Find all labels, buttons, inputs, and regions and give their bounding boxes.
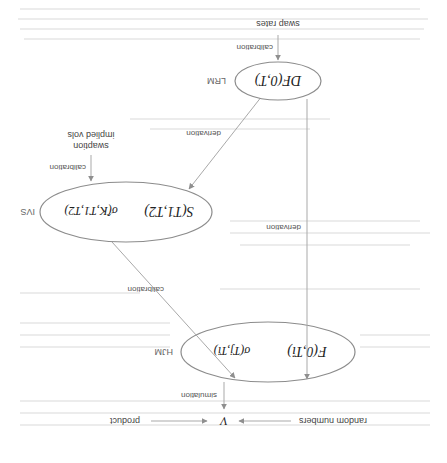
lrm-node: DF(0,T) LRM [207, 62, 321, 100]
hjm-model-label: HJM [155, 347, 174, 357]
flow-diagram: V random numbers product simulation F(0,… [0, 0, 447, 463]
simulation-label: simulation [181, 391, 217, 400]
edge-lrm-to-ivs: derivation [186, 96, 262, 189]
swap-rates-to-lrm-label: calibration [237, 43, 273, 52]
swap-rates-label: swap rates [256, 19, 300, 29]
edge-vols-to-ivs: calibration swaption implied vols [50, 130, 115, 181]
lrm-to-hjm-label: derivation [266, 223, 301, 232]
ivs-node: S(T1,T2) σ̂(K,T1,T2) IVS [20, 182, 212, 242]
ivs-model-label: IVS [20, 207, 35, 217]
lrm-model-label: LRM [207, 76, 226, 86]
hjm-ellipse [181, 322, 355, 382]
ivs-swap-rate: S(T1,T2) [144, 203, 194, 219]
ivs-implied-vol: σ̂(K,T1,T2) [64, 204, 117, 218]
random-numbers-label: random numbers [298, 416, 367, 426]
implied-vols-label: implied vols [67, 130, 115, 140]
product-label: product [109, 416, 140, 426]
hjm-volatility: σ(Tj,Ti) [214, 344, 250, 358]
lrm-discount-factor: DF(0,T) [255, 72, 303, 88]
diagram-canvas: V random numbers product simulation F(0,… [0, 0, 447, 463]
vols-to-ivs-label: calibration [50, 163, 86, 172]
hjm-node: F(0,Ti) σ(Tj,Ti) HJM [155, 322, 356, 382]
lrm-to-ivs-label: derivation [186, 129, 221, 138]
rotated-diagram: V random numbers product simulation F(0,… [20, 19, 367, 428]
lrm-to-ivs-arrow [189, 96, 262, 189]
edge-simulation: simulation [181, 382, 224, 409]
ivs-to-hjm-label: calibration [128, 285, 164, 294]
swaption-label: swaption [73, 141, 109, 151]
